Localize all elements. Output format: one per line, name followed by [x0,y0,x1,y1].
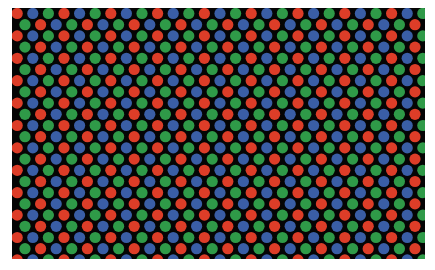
green-subpixel [136,187,147,198]
blue-subpixel [144,64,155,75]
red-subpixel [12,53,23,64]
red-subpixel [129,109,140,120]
red-subpixel [339,210,350,221]
green-subpixel [277,254,288,259]
red-subpixel [35,131,46,142]
blue-subpixel [355,142,366,153]
blue-subpixel [238,131,249,142]
blue-subpixel [51,154,62,165]
green-subpixel [394,64,405,75]
red-subpixel [409,154,420,165]
green-subpixel [300,198,311,209]
blue-subpixel [214,142,225,153]
green-subpixel [370,165,381,176]
red-subpixel [292,98,303,109]
blue-subpixel [261,210,272,221]
blue-subpixel [27,142,38,153]
blue-subpixel [97,19,108,30]
green-subpixel [19,131,30,142]
red-subpixel [363,221,374,232]
red-subpixel [199,8,210,19]
blue-subpixel [74,30,85,41]
blue-subpixel [331,221,342,232]
green-subpixel [230,232,241,243]
red-subpixel [199,232,210,243]
red-subpixel [199,210,210,221]
green-subpixel [19,154,30,165]
green-subpixel [347,221,358,232]
red-subpixel [12,75,23,86]
blue-subpixel [331,109,342,120]
red-subpixel [316,176,327,187]
red-subpixel [409,64,420,75]
red-subpixel [82,109,93,120]
red-subpixel [199,165,210,176]
blue-subpixel [355,120,366,131]
red-subpixel [339,232,350,243]
blue-subpixel [261,53,272,64]
blue-subpixel [27,30,38,41]
green-subpixel [417,187,425,198]
red-subpixel [35,221,46,232]
red-subpixel [199,142,210,153]
blue-subpixel [168,30,179,41]
green-subpixel [253,176,264,187]
green-subpixel [90,75,101,86]
red-subpixel [246,75,257,86]
red-subpixel [199,98,210,109]
green-subpixel [90,98,101,109]
blue-subpixel [97,243,108,254]
red-subpixel [12,98,23,109]
blue-subpixel [308,254,319,259]
blue-subpixel [121,53,132,64]
blue-subpixel [214,120,225,131]
green-subpixel [277,98,288,109]
red-subpixel [58,187,69,198]
red-subpixel [316,154,327,165]
green-subpixel [160,19,171,30]
blue-subpixel [402,53,413,64]
green-subpixel [347,86,358,97]
green-subpixel [160,64,171,75]
blue-subpixel [214,210,225,221]
red-subpixel [105,165,116,176]
red-subpixel [246,53,257,64]
blue-subpixel [261,165,272,176]
green-subpixel [19,42,30,53]
green-subpixel [19,243,30,254]
green-subpixel [113,19,124,30]
green-subpixel [394,109,405,120]
blue-subpixel [51,131,62,142]
blue-subpixel [191,176,202,187]
blue-subpixel [27,210,38,221]
green-subpixel [183,165,194,176]
blue-subpixel [27,98,38,109]
green-subpixel [207,198,218,209]
green-subpixel [347,176,358,187]
green-subpixel [370,98,381,109]
green-subpixel [90,8,101,19]
red-subpixel [246,254,257,259]
green-subpixel [277,187,288,198]
blue-subpixel [261,254,272,259]
green-subpixel [113,86,124,97]
green-subpixel [230,142,241,153]
red-subpixel [105,210,116,221]
green-subpixel [90,187,101,198]
red-subpixel [199,30,210,41]
blue-subpixel [27,165,38,176]
blue-subpixel [378,19,389,30]
blue-subpixel [27,75,38,86]
red-subpixel [269,243,280,254]
green-subpixel [394,131,405,142]
red-subpixel [105,53,116,64]
red-subpixel [269,109,280,120]
green-subpixel [43,187,54,198]
blue-subpixel [144,109,155,120]
blue-subpixel [285,154,296,165]
blue-subpixel [121,120,132,131]
red-subpixel [222,19,233,30]
blue-subpixel [168,53,179,64]
red-subpixel [222,243,233,254]
blue-subpixel [191,243,202,254]
